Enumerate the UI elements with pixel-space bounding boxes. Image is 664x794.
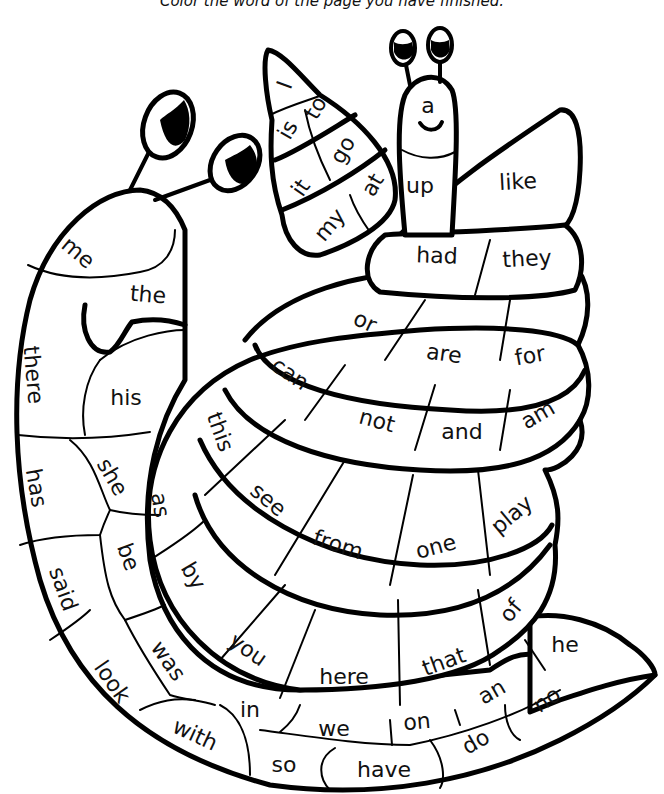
word-cell-on[interactable]: on bbox=[402, 710, 431, 734]
word-cell-like[interactable]: like bbox=[499, 170, 538, 194]
word-cell-up[interactable]: up bbox=[406, 175, 434, 197]
word-cell-we[interactable]: we bbox=[318, 718, 350, 740]
word-cell-here[interactable]: here bbox=[319, 666, 369, 688]
big-snail-eye-stalk-1 bbox=[130, 150, 150, 190]
word-cell-have[interactable]: have bbox=[357, 759, 411, 781]
word-cell-he[interactable]: he bbox=[551, 634, 578, 656]
word-cell-for[interactable]: for bbox=[513, 343, 547, 370]
word-cell-in[interactable]: in bbox=[240, 699, 260, 721]
word-cell-so[interactable]: so bbox=[272, 754, 297, 776]
big-snail-eye-stalk-2 bbox=[155, 180, 210, 200]
word-cell-has[interactable]: has bbox=[22, 467, 50, 509]
word-cell-as[interactable]: as bbox=[147, 491, 173, 519]
word-cell-they[interactable]: they bbox=[502, 247, 552, 272]
word-cell-there[interactable]: there bbox=[20, 345, 47, 405]
word-cell-the[interactable]: the bbox=[129, 282, 167, 307]
word-cell-a[interactable]: a bbox=[421, 95, 434, 117]
word-cell-had[interactable]: had bbox=[416, 244, 458, 267]
word-cell-and[interactable]: and bbox=[441, 421, 482, 443]
word-cell-his[interactable]: his bbox=[110, 387, 142, 409]
word-cell-are[interactable]: are bbox=[425, 341, 463, 368]
